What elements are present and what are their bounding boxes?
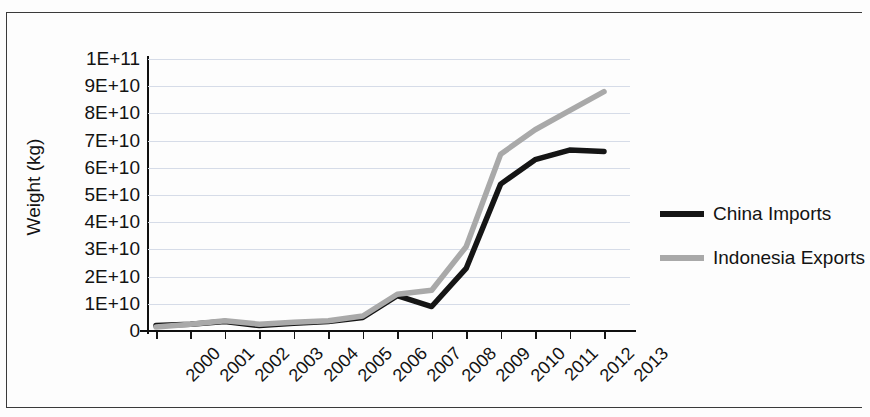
series-line [156, 150, 604, 325]
y-axis-tick-label: 6E+10 [48, 158, 140, 177]
chart-legend: China ImportsIndonesia Exports [660, 192, 870, 280]
x-axis-tick [535, 332, 537, 339]
y-axis-tick-label: 7E+10 [48, 131, 140, 150]
y-axis-tick-label: 3E+10 [48, 239, 140, 258]
y-axis-tick-label: 1E+11 [48, 49, 140, 68]
x-axis-tick-labels: 2000200120022003200420052006200720082009… [148, 331, 630, 411]
legend-color-swatch [660, 255, 704, 261]
x-axis-tick [294, 332, 296, 339]
y-axis-tick-label: 5E+10 [48, 185, 140, 204]
x-axis-tick [156, 332, 158, 339]
chart-figure: Weight (kg) 1E+119E+108E+107E+106E+105E+… [0, 0, 870, 417]
x-axis-tick [432, 332, 434, 339]
x-axis-tick [466, 332, 468, 339]
x-axis-tick-label: 2008 [457, 343, 500, 386]
y-axis-tick-label: 0 [48, 321, 140, 340]
x-axis-tick [363, 332, 365, 339]
legend-item: China Imports [660, 192, 870, 236]
legend-item: Indonesia Exports [660, 236, 870, 280]
x-axis-tick [397, 332, 399, 339]
x-axis-tick-label: 2013 [630, 343, 673, 386]
x-axis-tick-label: 2007 [423, 343, 466, 386]
x-axis-tick-label: 2003 [285, 343, 328, 386]
x-axis-tick-label: 2009 [492, 343, 535, 386]
chart-area: Weight (kg) 1E+119E+108E+107E+106E+105E+… [0, 0, 870, 417]
x-axis-tick-label: 2001 [216, 343, 259, 386]
x-axis-tick [501, 332, 503, 339]
y-axis-tick-label: 4E+10 [48, 212, 140, 231]
legend-label: China Imports [713, 203, 831, 225]
series-line [156, 92, 604, 327]
x-axis-tick-label: 2000 [182, 343, 225, 386]
x-axis-tick [570, 332, 572, 339]
x-axis-tick-label: 2006 [388, 343, 431, 386]
x-axis-tick-label: 2010 [526, 343, 569, 386]
y-axis-tick-labels: 1E+119E+108E+107E+106E+105E+104E+103E+10… [48, 0, 140, 417]
y-axis-tick-label: 1E+10 [48, 294, 140, 313]
x-axis-tick-label: 2004 [320, 343, 363, 386]
y-axis-tick-label: 8E+10 [48, 103, 140, 122]
x-axis-tick-label: 2005 [354, 343, 397, 386]
x-axis-tick [259, 332, 261, 339]
x-axis-tick [190, 332, 192, 339]
legend-label: Indonesia Exports [713, 247, 865, 269]
x-axis-tick [604, 332, 606, 339]
x-axis-tick-label: 2012 [595, 343, 638, 386]
x-axis-tick-label: 2002 [251, 343, 294, 386]
y-axis-title: Weight (kg) [23, 107, 45, 267]
x-axis-tick [225, 332, 227, 339]
plot-area [148, 59, 630, 331]
series-lines [148, 59, 630, 331]
x-axis-tick-label: 2011 [560, 343, 602, 385]
x-axis-tick [328, 332, 330, 339]
legend-color-swatch [660, 211, 704, 217]
y-axis-tick-label: 2E+10 [48, 267, 140, 286]
y-axis-tick-label: 9E+10 [48, 76, 140, 95]
